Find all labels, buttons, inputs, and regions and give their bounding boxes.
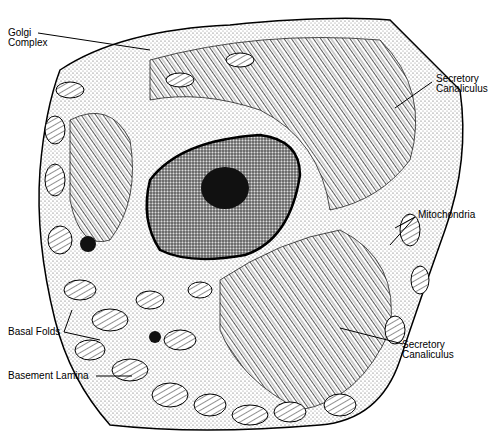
label-line: Canaliculus bbox=[436, 84, 488, 94]
label-mitochondria: Mitochondria bbox=[418, 210, 475, 220]
granule bbox=[149, 331, 161, 343]
label-line: Complex bbox=[8, 38, 47, 48]
label-basal-folds: Basal Folds bbox=[8, 327, 60, 337]
granule bbox=[80, 236, 96, 252]
label-secretory-canaliculus-bottom: Secretory Canaliculus bbox=[402, 340, 454, 360]
label-line: Canaliculus bbox=[402, 350, 454, 360]
label-basement-lamina: Basement Lamina bbox=[8, 371, 89, 381]
label-line: Basement Lamina bbox=[8, 371, 89, 381]
label-line: Basal Folds bbox=[8, 327, 60, 337]
label-secretory-canaliculus-top: Secretory Canaliculus bbox=[436, 74, 488, 94]
nucleolus bbox=[201, 167, 249, 209]
label-line: Mitochondria bbox=[418, 210, 475, 220]
label-golgi-complex: Golgi Complex bbox=[8, 28, 47, 48]
